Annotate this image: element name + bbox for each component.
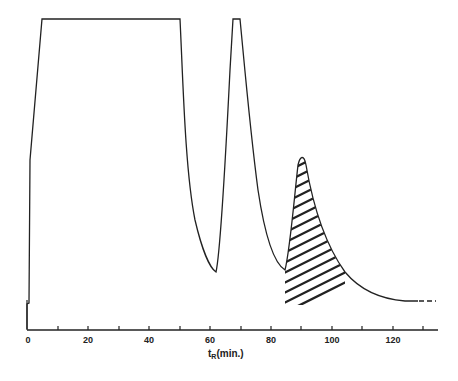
x-axis-tick-labels: 0 20 40 60 80 100 120 — [25, 335, 400, 345]
x-tick-label: 20 — [83, 335, 93, 345]
x-tick-label: 80 — [266, 335, 276, 345]
x-tick-label: 0 — [25, 335, 30, 345]
x-tick-label: 100 — [324, 335, 339, 345]
hatched-fraction-region — [270, 130, 350, 320]
chromatogram-chart: 0 20 40 60 80 100 120 tR(min.) — [0, 0, 458, 381]
chromatogram-trace — [27, 19, 418, 329]
x-tick-label: 40 — [144, 335, 154, 345]
x-tick-label: 60 — [205, 335, 215, 345]
x-axis-title: tR(min.) — [208, 348, 244, 360]
x-tick-label: 120 — [385, 335, 400, 345]
